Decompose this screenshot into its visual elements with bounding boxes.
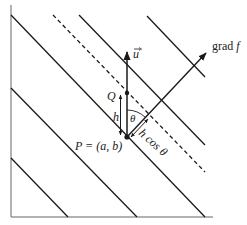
- contour-line-5: [147, 16, 205, 77]
- point-p-label: P = (a, b): [74, 139, 122, 153]
- step-h-label: h: [113, 110, 119, 124]
- point-q-dot: [125, 91, 129, 95]
- gradient-label: grad f: [212, 39, 241, 53]
- angle-theta-label: θ: [130, 112, 136, 124]
- point-q-label: Q: [107, 89, 116, 103]
- axes: [11, 5, 213, 217]
- contour-diagram: u grad f Q h θ P = (a, b) h cos θ: [0, 0, 247, 225]
- gradient-arrow: [127, 53, 206, 137]
- point-p-dot: [124, 134, 129, 139]
- contour-lines: [11, 15, 205, 217]
- contour-line-1: [11, 158, 68, 217]
